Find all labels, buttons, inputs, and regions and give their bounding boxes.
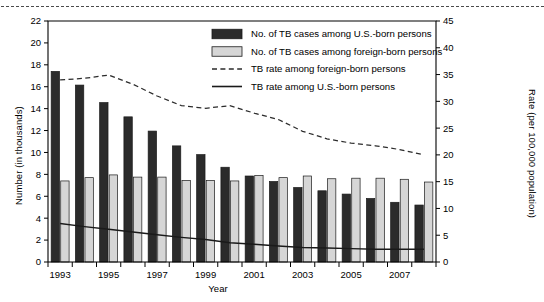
y-axis-right-tick-label: 5 (443, 230, 448, 241)
y-axis-right-tick-label: 15 (443, 176, 454, 187)
bar (51, 71, 59, 262)
y-axis-left-tick-label: 16 (30, 81, 41, 92)
x-axis-tick-label: 2007 (389, 269, 410, 280)
bar (109, 175, 117, 262)
y-axis-left-tick-label: 6 (36, 191, 41, 202)
x-axis-tick-label: 2005 (341, 269, 362, 280)
x-axis-tick-label: 2003 (292, 269, 313, 280)
y-axis-left-tick-label: 4 (36, 213, 41, 224)
bar (245, 176, 253, 262)
bar (100, 103, 108, 262)
y-axis-right-tick-label: 20 (443, 149, 454, 160)
bar (172, 146, 180, 262)
y-axis-left-tick-label: 14 (30, 103, 41, 114)
bar (182, 180, 190, 262)
bar (303, 176, 311, 262)
bar (124, 117, 132, 262)
chart-canvas: 0246810121416182022051015202530354045199… (0, 0, 544, 302)
bar (158, 177, 166, 262)
y-axis-left-tick-label: 0 (36, 256, 41, 267)
legend-label: TB rate among U.S.-born persons (251, 81, 395, 92)
bar (424, 182, 432, 262)
y-axis-right-tick-label: 0 (443, 256, 448, 267)
bar (197, 155, 205, 262)
x-axis-tick-label: 2001 (244, 269, 265, 280)
bar (75, 85, 83, 262)
y-axis-left-tick-label: 8 (36, 169, 41, 180)
bar (294, 188, 302, 262)
bar (255, 175, 263, 262)
x-axis-tick-label: 1995 (98, 269, 119, 280)
legend-item: TB rate among foreign-born persons (212, 63, 406, 74)
legend-item: No. of TB cases among U.S.-born persons (212, 28, 432, 39)
light-bar-swatch (212, 47, 242, 57)
bar (279, 178, 287, 262)
x-axis-tick-label: 1993 (50, 269, 71, 280)
bar (415, 205, 423, 262)
y-axis-left-tick-label: 10 (30, 147, 41, 158)
bar (366, 198, 374, 262)
tb-cases-and-rates-chart: 0246810121416182022051015202530354045199… (0, 0, 544, 302)
legend-label: No. of TB cases among U.S.-born persons (251, 28, 432, 39)
bar (327, 179, 335, 262)
bar (85, 178, 93, 262)
y-axis-left-tick-label: 20 (30, 37, 41, 48)
x-axis-tick-label: 1999 (195, 269, 216, 280)
y-axis-left-tick-label: 2 (36, 234, 41, 245)
y-axis-right-tick-label: 40 (443, 42, 454, 53)
dark-bar-swatch (212, 29, 242, 39)
x-axis-tick-label: 1997 (147, 269, 168, 280)
bar (318, 191, 326, 262)
y-axis-right-tick-label: 45 (443, 15, 454, 26)
y-axis-right-tick-label: 35 (443, 69, 454, 80)
y-axis-left-tick-label: 22 (30, 15, 41, 26)
legend-label: No. of TB cases among foreign-born perso… (251, 46, 442, 57)
y-axis-right-tick-label: 30 (443, 96, 454, 107)
bar (342, 194, 350, 262)
y-axis-right-title: Rate (per 100,000 population) (527, 59, 538, 249)
bar (230, 181, 238, 262)
bar (391, 202, 399, 262)
y-axis-left-tick-label: 12 (30, 125, 41, 136)
bar (269, 181, 277, 262)
legend-label: TB rate among foreign-born persons (251, 63, 406, 74)
y-axis-right-tick-label: 10 (443, 203, 454, 214)
legend-item: TB rate among U.S.-born persons (212, 81, 395, 92)
bar (133, 177, 141, 262)
legend-item: No. of TB cases among foreign-born perso… (212, 46, 442, 57)
x-axis-title: Year (0, 283, 436, 294)
y-axis-left-tick-label: 18 (30, 59, 41, 70)
bar (221, 167, 229, 262)
y-axis-right-tick-label: 25 (443, 123, 454, 134)
bar (61, 181, 69, 262)
bar (148, 131, 156, 262)
y-axis-left-title: Number (in thousands) (13, 76, 24, 236)
bar (206, 180, 214, 262)
